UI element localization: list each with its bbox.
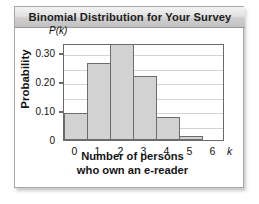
y-tick-label-0.30: 0.30 <box>15 48 55 59</box>
bar-4 <box>156 117 180 140</box>
plot-area <box>63 44 224 141</box>
y-tick-mark <box>59 53 63 54</box>
y-tick-label-0: 0 <box>15 135 55 146</box>
gridline <box>64 55 223 56</box>
chart-area: Probability P(k) 00.100.200.30 0123456k … <box>15 28 245 188</box>
bar-1 <box>87 63 111 140</box>
figure-container: Binomial Distribution for Your Survey Pr… <box>0 0 259 204</box>
y-axis-caption-text: P(k) <box>49 25 67 36</box>
y-axis-caption: P(k) <box>49 25 67 36</box>
x-axis-title-line1: Number of persons <box>35 149 230 163</box>
bar-0 <box>64 113 88 141</box>
x-axis-title-line2: who own an e-reader <box>35 163 230 177</box>
bar-5 <box>179 136 203 140</box>
bar-3 <box>133 76 157 140</box>
y-tick-mark <box>59 82 63 83</box>
chart-card: Binomial Distribution for Your Survey Pr… <box>14 6 244 188</box>
y-tick-label-0.20: 0.20 <box>15 77 55 88</box>
y-tick-label-0.10: 0.10 <box>15 106 55 117</box>
y-tick-mark <box>59 111 63 112</box>
page-title: Binomial Distribution for Your Survey <box>29 11 232 23</box>
x-axis-title: Number of persons who own an e-reader <box>35 149 230 177</box>
bar-2 <box>110 44 134 140</box>
